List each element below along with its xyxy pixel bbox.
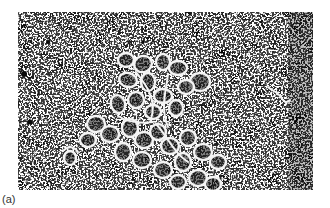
micrograph-image [18, 12, 313, 190]
edge-shadow [288, 12, 313, 190]
panel-label: (a) [2, 193, 15, 206]
figure: (a) [0, 0, 330, 208]
micrograph-svg [18, 12, 313, 190]
